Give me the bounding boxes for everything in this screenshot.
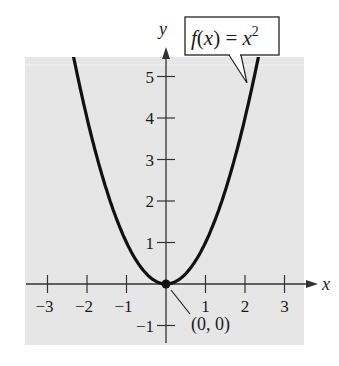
x-axis-arrow-icon [306,280,318,288]
y-tick-label: 3 [146,151,155,170]
y-tick-label: 2 [146,192,155,211]
parabola-figure: x y −3−2−1123−112345 (0, 0) f(x) = x2 [0,0,339,366]
y-axis-label: y [157,19,167,39]
x-tick-label: 2 [241,297,250,316]
x-tick-label: −2 [75,297,93,316]
x-tick-label: 3 [280,297,289,316]
function-label: f(x) = x2 [191,24,259,50]
y-axis-arrow-icon [162,47,170,59]
x-tick-label: −1 [114,297,132,316]
y-tick-label: 4 [146,109,155,128]
vertex-label: (0, 0) [191,314,230,335]
x-axis-label: x [321,274,330,294]
y-tick-label: 5 [146,68,155,87]
y-tick-label: −1 [136,317,154,336]
y-tick-label: 1 [146,234,155,253]
vertex-point [162,280,171,289]
chart-svg: x y −3−2−1123−112345 (0, 0) f(x) = x2 [0,0,339,366]
x-tick-label: −3 [35,297,53,316]
